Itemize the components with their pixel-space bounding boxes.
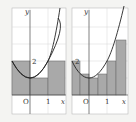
- two-panel-riemann-plot: y 2 O 1 x: [0, 0, 136, 122]
- right-panel: y 2 O 1 x: [72, 6, 128, 114]
- rect: [72, 61, 80, 95]
- figure: y 2 O 1 x: [0, 0, 136, 122]
- right-x-label: x: [122, 98, 126, 106]
- left-panel: y 2 O 1 x: [12, 8, 66, 114]
- rect: [89, 78, 98, 95]
- left-x-label: x: [61, 98, 65, 106]
- rect: [48, 61, 65, 95]
- left-y-tick-2: 2: [32, 58, 36, 66]
- rect: [98, 74, 107, 95]
- rect: [107, 61, 116, 95]
- left-origin-label: O: [23, 98, 29, 106]
- rect: [116, 40, 126, 95]
- right-origin-label: O: [83, 98, 89, 106]
- rect: [30, 78, 48, 95]
- left-x-tick-1: 1: [46, 98, 50, 106]
- right-x-tick-1: 1: [105, 98, 109, 106]
- right-y-tick-2: 2: [75, 58, 79, 66]
